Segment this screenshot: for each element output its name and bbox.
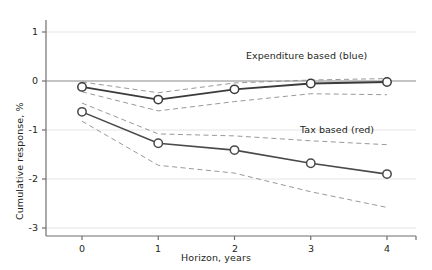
- y-tick-label-neg2: -2: [16, 173, 38, 184]
- x-tick-label-2: 2: [220, 243, 250, 254]
- x-axis-title: Horizon, years: [0, 252, 432, 263]
- y-tick-label-neg3: -3: [16, 222, 38, 233]
- chart-plot-area: [0, 0, 432, 270]
- x-tick-label-3: 3: [296, 243, 326, 254]
- series-annotation-expenditure: Expenditure based (blue): [246, 50, 367, 61]
- x-tick-label-1: 1: [143, 243, 173, 254]
- x-tick-label-4: 4: [372, 243, 402, 254]
- x-tick-label-0: 0: [67, 243, 97, 254]
- confidence-bands: [82, 79, 387, 208]
- y-tick-label-0: 0: [16, 75, 38, 86]
- y-tick-label-1: 1: [16, 26, 38, 37]
- y-tick-label-neg1: -1: [16, 124, 38, 135]
- series-annotation-tax: Tax based (red): [300, 124, 374, 135]
- chart-figure: Cumulative response, % Horizon, years 1 …: [0, 0, 432, 270]
